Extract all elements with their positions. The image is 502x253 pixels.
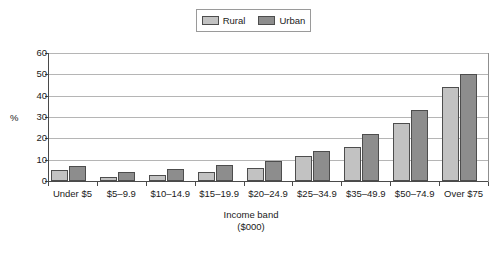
bar-rural (344, 147, 361, 181)
x-tick-mark (341, 182, 342, 186)
y-tick-label: 30 (25, 112, 47, 122)
grouped-bar-chart: Rural Urban % Income band ($000) 0102030… (0, 0, 502, 253)
y-tick-label: 20 (25, 133, 47, 143)
bar-urban (411, 110, 428, 181)
x-tick-mark (48, 182, 49, 186)
x-tick-label: $35–49.9 (346, 188, 386, 199)
bar-group (97, 53, 146, 181)
y-axis-title: % (10, 113, 18, 123)
bar-rural (442, 87, 459, 181)
bar-urban (265, 161, 282, 181)
x-tick-mark (292, 182, 293, 186)
x-tick-label: $15–19.9 (199, 188, 239, 199)
bar-urban (313, 151, 330, 181)
x-tick-label: $20–24.9 (248, 188, 288, 199)
bar-group (244, 53, 293, 181)
x-tick-mark (195, 182, 196, 186)
bar-urban (118, 172, 135, 181)
bar-rural (295, 156, 312, 181)
x-tick-label: Over $75 (444, 188, 483, 199)
x-tick-label: $10–14.9 (150, 188, 190, 199)
bar-rural (100, 177, 117, 181)
bar-urban (69, 166, 86, 181)
bar-rural (198, 172, 215, 181)
x-tick-label: $50–74.9 (395, 188, 435, 199)
x-tick-mark (244, 182, 245, 186)
legend-swatch-urban (258, 16, 275, 25)
bar-group (292, 53, 341, 181)
y-tick-label: 0 (25, 176, 47, 186)
bar-group (48, 53, 97, 181)
bar-urban (362, 134, 379, 181)
x-tick-label: $25–34.9 (297, 188, 337, 199)
x-axis-title-line1: Income band (0, 209, 502, 221)
bar-rural (247, 168, 264, 181)
y-tick-label: 60 (25, 48, 47, 58)
bar-urban (216, 165, 233, 181)
x-axis-title-line2: ($000) (0, 221, 502, 233)
bar-rural (51, 170, 68, 181)
x-axis-title: Income band ($000) (0, 209, 502, 233)
bar-group (341, 53, 390, 181)
plot-right-border (488, 53, 489, 182)
bar-group (195, 53, 244, 181)
x-tick-mark (97, 182, 98, 186)
y-tick-label: 50 (25, 69, 47, 79)
bar-urban (167, 169, 184, 181)
x-tick-label: $5–9.9 (107, 188, 136, 199)
legend-swatch-rural (202, 16, 219, 25)
x-tick-mark (439, 182, 440, 186)
chart-legend: Rural Urban (196, 9, 311, 32)
legend-item-rural: Rural (202, 16, 246, 26)
bar-group (390, 53, 439, 181)
x-tick-label: Under $5 (53, 188, 92, 199)
y-tick-label: 40 (25, 91, 47, 101)
y-tick-label: 10 (25, 155, 47, 165)
bar-group (439, 53, 488, 181)
bar-rural (393, 123, 410, 181)
x-tick-mark (488, 182, 489, 186)
legend-item-urban: Urban (258, 16, 305, 26)
bar-group (146, 53, 195, 181)
bar-rural (149, 175, 166, 181)
bars-layer (48, 53, 488, 181)
legend-label-rural: Rural (223, 16, 246, 26)
x-tick-mark (390, 182, 391, 186)
legend-label-urban: Urban (279, 16, 305, 26)
bar-urban (460, 74, 477, 181)
x-tick-mark (146, 182, 147, 186)
